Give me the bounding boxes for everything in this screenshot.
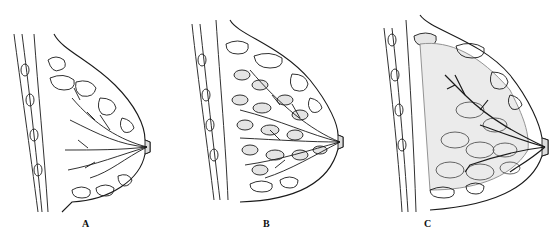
breast-cross-section-c-illustration [370, 0, 559, 243]
panel-b: B [180, 0, 370, 243]
panel-c: C [370, 0, 559, 243]
breast-cross-section-b-illustration [180, 0, 370, 243]
breast-cross-section-a-illustration [0, 0, 190, 243]
panel-a: A [0, 0, 190, 243]
panel-label-b: B [263, 218, 270, 229]
panel-label-c: C [424, 218, 432, 229]
panel-label-a: A [82, 218, 90, 229]
